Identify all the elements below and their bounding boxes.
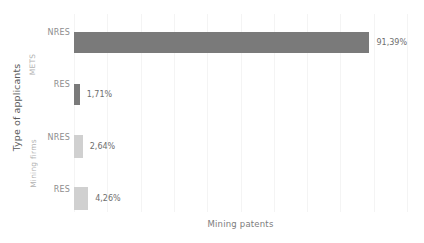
bar-mets-res[interactable] bbox=[74, 84, 80, 105]
bar-row: 91,39% bbox=[74, 22, 407, 62]
bar-value-mets-nres: 91,39% bbox=[376, 38, 407, 47]
bar-value-mining-firms-res: 4,26% bbox=[95, 194, 120, 203]
x-axis-title: Mining patents bbox=[74, 219, 407, 229]
y-axis-title: Type of applicants bbox=[10, 0, 24, 215]
plot-area: 91,39% 1,71% 2,64% 4,26% bbox=[74, 14, 407, 212]
bar-mining-firms-res[interactable] bbox=[74, 187, 88, 210]
bar-value-mets-res: 1,71% bbox=[87, 90, 112, 99]
bar-value-mining-firms-nres: 2,64% bbox=[90, 142, 115, 151]
bar-mining-firms-nres[interactable] bbox=[74, 135, 83, 158]
bar-row: 4,26% bbox=[74, 178, 407, 218]
tick-label-mining-firms-nres: NRES bbox=[30, 133, 70, 142]
bar-row: 1,71% bbox=[74, 74, 407, 114]
bar-row: 2,64% bbox=[74, 126, 407, 166]
y-axis-tick-labels: NRES RES NRES RES bbox=[28, 14, 70, 212]
bar-mets-nres[interactable] bbox=[74, 32, 369, 53]
bar-chart: Type of applicants METS Mining firms NRE… bbox=[0, 0, 424, 243]
tick-label-mets-res: RES bbox=[30, 80, 70, 89]
tick-label-mining-firms-res: RES bbox=[30, 185, 70, 194]
gridline bbox=[407, 14, 408, 212]
tick-label-mets-nres: NRES bbox=[30, 28, 70, 37]
y-axis-title-text: Type of applicants bbox=[12, 64, 23, 152]
